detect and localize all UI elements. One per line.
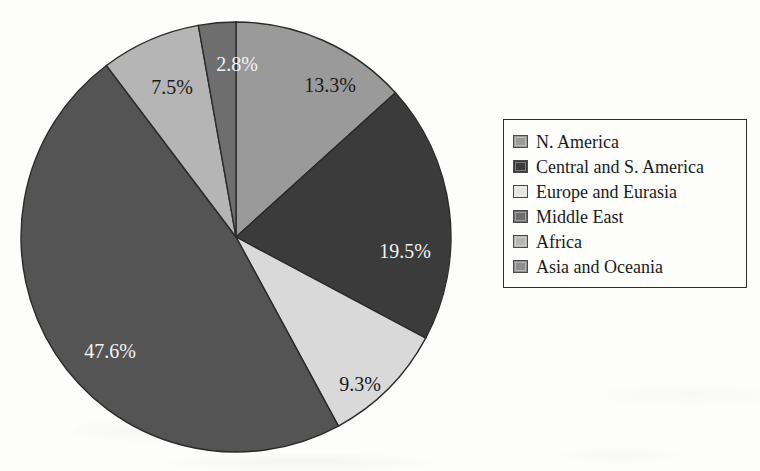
pie-slice-group [21,22,451,452]
legend-item[interactable]: Central and S. America [513,154,746,179]
legend-swatch-icon [513,160,528,173]
pie-slice-label: 9.3% [339,373,381,395]
legend-item-label: Middle East [536,208,624,226]
legend-swatch-icon [513,260,528,273]
legend-item[interactable]: Africa [513,229,746,254]
pie-slice-label: 2.8% [216,53,258,75]
legend-item[interactable]: N. America [513,129,746,154]
pie-slice-label: 47.6% [84,340,136,362]
legend-swatch-icon [513,135,528,148]
pie-slice-label: 7.5% [151,76,193,98]
chart-legend: N. AmericaCentral and S. AmericaEurope a… [503,119,747,288]
legend-swatch-icon [513,185,528,198]
pie-chart-svg: 13.3%19.5%9.3%47.6%7.5%2.8% [20,21,453,454]
legend-swatch-icon [513,210,528,223]
pie-slice-label: 13.3% [304,74,356,96]
pie-chart-figure: 13.3%19.5%9.3%47.6%7.5%2.8% N. AmericaCe… [0,0,760,471]
legend-item-label: Europe and Eurasia [536,183,677,201]
pie-chart: 13.3%19.5%9.3%47.6%7.5%2.8% [20,21,453,454]
legend-item-label: Central and S. America [536,158,704,176]
legend-item[interactable]: Asia and Oceania [513,254,746,279]
pie-slice-label: 19.5% [379,240,431,262]
legend-swatch-icon [513,235,528,248]
legend-item-label: N. America [536,133,619,151]
legend-item[interactable]: Middle East [513,204,746,229]
legend-item[interactable]: Europe and Eurasia [513,179,746,204]
legend-item-label: Africa [536,233,582,251]
legend-item-label: Asia and Oceania [536,258,663,276]
